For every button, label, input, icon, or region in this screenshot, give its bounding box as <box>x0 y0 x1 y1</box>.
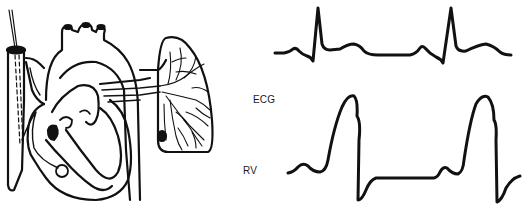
waveform-traces <box>0 0 523 210</box>
catheterization-figure: ECG RV <box>0 0 523 210</box>
rv-label: RV <box>243 165 257 176</box>
rv-pressure-trace <box>288 96 520 202</box>
ecg-trace <box>275 8 511 63</box>
ecg-label: ECG <box>253 94 275 105</box>
